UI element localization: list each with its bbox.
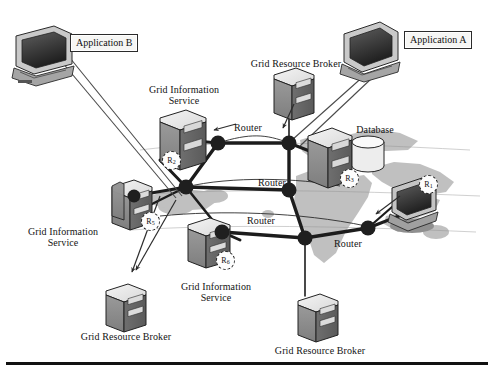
application-b-box[interactable]: Application B [70,34,138,52]
router-badge-r5: R5 [141,212,160,231]
label-router-2: Router [258,177,286,188]
router-badge-r2-text: R2 [167,156,175,165]
label-grid-resource-broker-top: Grid Resource Broker [251,58,341,69]
label-grid-information-service-mid: Grid Information [181,281,251,292]
label-grid-information-service-top-2: Service [169,95,200,106]
label-grid-resource-broker-right: Grid Resource Broker [275,345,365,356]
workstation-app-b [12,26,74,86]
router-node-s [298,231,313,246]
workstation-app-a [340,22,400,82]
label-router-1: Router [234,122,262,133]
server-grb-top [274,68,314,120]
application-a-box[interactable]: Application A [404,31,472,49]
router-badge-r6-text: R6 [221,256,229,265]
router-badge-r6: R6 [216,251,235,270]
label-database: Database [356,124,393,135]
bottom-rule [6,362,488,365]
router-badge-r1-text: R1 [424,180,432,189]
router-node-mid-w [179,180,194,195]
server-r4 [112,182,124,220]
router-node-w [128,190,141,203]
database-cylinder [352,136,384,172]
server-grb-bottom-right [298,294,338,342]
label-router-4: Router [334,238,362,249]
router-node-sw [215,225,230,240]
router-node-ne [282,136,297,151]
label-router-3: Router [247,215,275,226]
router-node-se [361,221,376,236]
router-node-nw [211,136,226,151]
label-grid-information-service-mid-2: Service [201,292,232,303]
router-badge-r3: R3 [340,169,359,188]
label-grid-information-service-left-2: Service [48,237,79,248]
server-grb-bottom-left [106,284,146,332]
label-grid-information-service-left: Grid Information [28,226,98,237]
router-badge-r5-text: R5 [146,217,154,226]
figure-canvas: Application B Application A Grid Informa… [0,0,494,374]
label-grid-resource-broker-left: Grid Resource Broker [81,331,171,342]
label-grid-information-service-top: Grid Information [149,84,219,95]
router-badge-r3-text: R3 [345,174,353,183]
router-badge-r2: R2 [162,151,181,170]
router-badge-r1: R1 [419,175,438,194]
